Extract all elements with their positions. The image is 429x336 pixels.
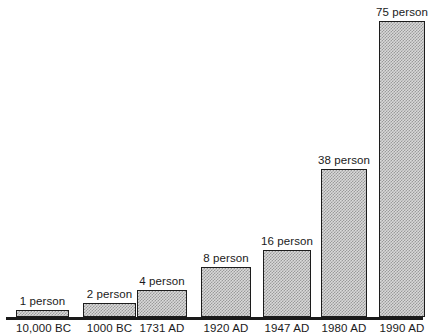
bar-column-3: 4 person <box>137 290 187 317</box>
bar-column-1: 1 person <box>16 310 69 317</box>
x-tick-label-6: 1980 AD <box>321 322 367 334</box>
x-tick-label-5: 1947 AD <box>263 322 311 334</box>
x-axis-line <box>6 317 423 320</box>
bar-value-label-6: 38 person <box>318 154 370 166</box>
bar-value-label-5: 16 person <box>261 235 313 247</box>
bar-rect-5[interactable] <box>263 250 311 317</box>
population-density-bar-chart: 1 person 10,000 BC 2 person 1000 BC 4 pe… <box>0 0 429 336</box>
bar-column-7: 75 person <box>379 21 425 317</box>
x-tick-label-2: 1000 BC <box>83 322 136 334</box>
bar-value-label-7: 75 person <box>376 6 428 18</box>
x-tick-label-7: 1990 AD <box>379 322 425 334</box>
x-tick-label-3: 1731 AD <box>137 322 187 334</box>
bar-rect-2[interactable] <box>83 303 136 317</box>
bar-rect-1[interactable] <box>16 310 69 317</box>
bar-column-2: 2 person <box>83 303 136 317</box>
bar-rect-6[interactable] <box>321 169 367 317</box>
bar-value-label-2: 2 person <box>87 288 133 300</box>
bar-rect-4[interactable] <box>201 267 251 317</box>
bar-column-6: 38 person <box>321 169 367 317</box>
bar-value-label-1: 1 person <box>20 295 66 307</box>
x-tick-label-1: 10,000 BC <box>16 322 69 334</box>
bar-column-4: 8 person <box>201 267 251 317</box>
plot-area: 1 person 10,000 BC 2 person 1000 BC 4 pe… <box>0 0 429 336</box>
bar-rect-3[interactable] <box>137 290 187 317</box>
bar-value-label-4: 8 person <box>203 252 249 264</box>
bar-column-5: 16 person <box>263 250 311 317</box>
bar-rect-7[interactable] <box>379 21 425 317</box>
x-tick-label-4: 1920 AD <box>201 322 251 334</box>
bar-value-label-3: 4 person <box>139 275 185 287</box>
